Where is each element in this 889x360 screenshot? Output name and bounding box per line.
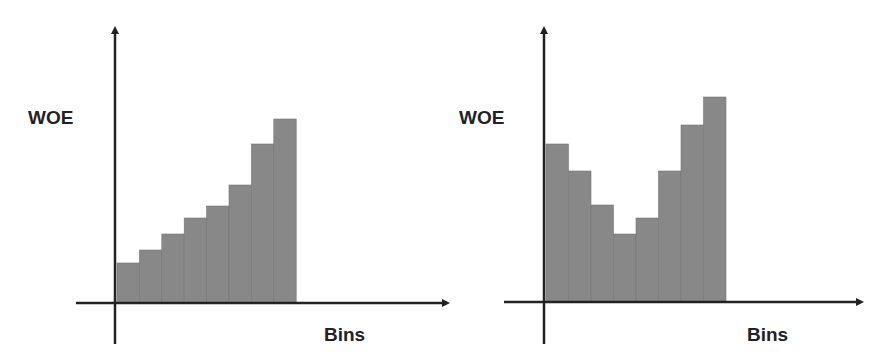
woe-charts: WOE Bins WOE Bins xyxy=(0,0,889,360)
bar-bin-3 xyxy=(162,234,184,303)
bar-bin-8 xyxy=(704,97,727,302)
bar-bin-4 xyxy=(184,218,206,303)
bar-bin-6 xyxy=(229,185,251,303)
bar-bin-2 xyxy=(139,250,161,303)
bar-bin-7 xyxy=(681,125,704,302)
bar-bin-7 xyxy=(251,144,273,303)
bars xyxy=(546,97,726,302)
chart-right: WOE Bins xyxy=(459,30,860,345)
bar-bin-8 xyxy=(274,119,296,303)
bar-bin-1 xyxy=(117,263,139,303)
bar-bin-6 xyxy=(659,171,682,302)
chart-left: WOE Bins xyxy=(28,30,446,345)
bar-bin-2 xyxy=(569,171,592,302)
bar-bin-5 xyxy=(207,206,229,303)
bar-bin-3 xyxy=(591,205,614,302)
y-axis-label: WOE xyxy=(459,107,504,128)
bar-bin-1 xyxy=(546,144,569,302)
x-axis-label: Bins xyxy=(747,324,788,345)
bars xyxy=(117,119,296,303)
y-axis-label: WOE xyxy=(28,107,73,128)
bar-bin-4 xyxy=(614,234,637,302)
x-axis-label: Bins xyxy=(324,324,365,345)
bar-bin-5 xyxy=(636,218,659,302)
